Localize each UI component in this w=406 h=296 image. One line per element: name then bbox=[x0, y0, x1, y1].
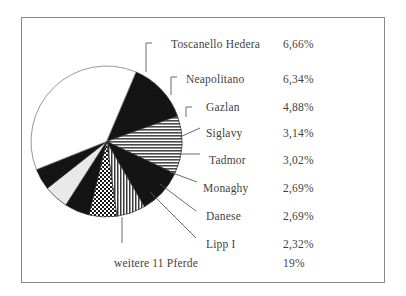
legend-item-value: 4,88% bbox=[283, 99, 314, 115]
legend-item-label: weitere 11 Pferde bbox=[114, 255, 198, 271]
legend-item-value: 3,14% bbox=[283, 125, 314, 141]
legend-item: Neapolitano6,34% bbox=[0, 71, 406, 87]
legend: Toscanello Hedera6,66%Neapolitano6,34%Ga… bbox=[0, 0, 406, 296]
legend-item-value: 6,66% bbox=[283, 36, 314, 52]
legend-item: Gazlan4,88% bbox=[0, 99, 406, 115]
chart-figure: Toscanello Hedera6,66%Neapolitano6,34%Ga… bbox=[0, 0, 406, 296]
legend-item: weitere 11 Pferde19% bbox=[0, 255, 406, 271]
legend-item-label: Monaghy bbox=[203, 180, 248, 196]
legend-item: Danese2,69% bbox=[0, 208, 406, 224]
legend-item: Toscanello Hedera6,66% bbox=[0, 36, 406, 52]
legend-item-label: Danese bbox=[206, 208, 241, 224]
legend-item-value: 2,69% bbox=[283, 208, 314, 224]
legend-item-label: Lipp I bbox=[206, 236, 236, 252]
legend-item: Lipp I2,32% bbox=[0, 236, 406, 252]
legend-item-label: Siglavy bbox=[206, 125, 243, 141]
legend-item-label: Tadmor bbox=[209, 152, 246, 168]
legend-item-label: Neapolitano bbox=[186, 71, 244, 87]
legend-item-label: Gazlan bbox=[206, 99, 240, 115]
legend-item-value: 2,69% bbox=[283, 180, 314, 196]
legend-item: Tadmor3,02% bbox=[0, 152, 406, 168]
legend-item: Siglavy3,14% bbox=[0, 125, 406, 141]
legend-item-value: 6,34% bbox=[283, 71, 314, 87]
legend-item-value: 19% bbox=[283, 255, 305, 271]
legend-item: Monaghy2,69% bbox=[0, 180, 406, 196]
legend-item-value: 2,32% bbox=[283, 236, 314, 252]
legend-item-value: 3,02% bbox=[283, 152, 314, 168]
legend-item-label: Toscanello Hedera bbox=[171, 36, 260, 52]
